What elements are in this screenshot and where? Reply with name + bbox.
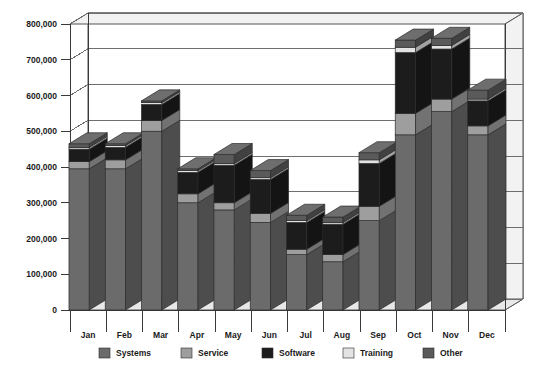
legend-swatch-systems-icon bbox=[99, 348, 110, 358]
bar-segment-aug-other bbox=[323, 217, 343, 222]
bar-segment-side bbox=[488, 124, 506, 310]
y-axis-tick-label: 300,000 bbox=[26, 198, 57, 208]
bar-segment-aug-software bbox=[323, 224, 343, 254]
bar-segment-side bbox=[271, 211, 289, 310]
chart-right-face bbox=[505, 13, 523, 310]
y-axis-tick-label: 700,000 bbox=[26, 55, 57, 65]
bar-segment-jan-service bbox=[69, 162, 89, 169]
stacked-bar-chart: 0100,000200,000300,000400,000500,000600,… bbox=[0, 0, 535, 380]
bar-segment-mar-service bbox=[141, 121, 161, 132]
bar-segment-sep-service bbox=[359, 206, 379, 220]
bar-segment-nov-other bbox=[431, 38, 451, 45]
bar-segment-side bbox=[162, 120, 180, 310]
bar-segment-oct-software bbox=[395, 53, 415, 114]
bar-segment-side bbox=[126, 158, 144, 310]
y-axis-tick-label: 500,000 bbox=[26, 126, 57, 136]
chart-legend: SystemsServiceSoftwareTrainingOther bbox=[99, 348, 463, 358]
legend-item-training[interactable]: Training bbox=[343, 348, 393, 358]
bar-segment-jun-service bbox=[250, 213, 270, 222]
bar-stack-dec bbox=[468, 79, 506, 310]
bar-segment-dec-systems bbox=[468, 135, 488, 310]
bar-segment-apr-software bbox=[178, 172, 198, 193]
legend-swatch-other-icon bbox=[423, 348, 434, 358]
bar-segment-apr-service bbox=[178, 194, 198, 203]
bar-segment-jan-software bbox=[69, 149, 89, 162]
bar-segment-sep-systems bbox=[359, 221, 379, 310]
bar-segment-mar-software bbox=[141, 104, 161, 120]
bar-segment-may-service bbox=[214, 203, 234, 210]
bar-segment-apr-systems bbox=[178, 203, 198, 310]
bar-segment-oct-systems bbox=[395, 135, 415, 310]
x-axis-label-may: May bbox=[225, 330, 242, 340]
bar-segment-side bbox=[234, 199, 252, 310]
y-axis-tick-label: 800,000 bbox=[26, 19, 57, 29]
bar-segment-mar-systems bbox=[141, 131, 161, 310]
bar-segment-side bbox=[198, 192, 216, 310]
x-axis-label-feb: Feb bbox=[117, 330, 132, 340]
legend-item-systems[interactable]: Systems bbox=[99, 348, 151, 358]
legend-label-software: Software bbox=[279, 348, 315, 358]
y-axis-tick-label: 600,000 bbox=[26, 91, 57, 101]
bar-segment-oct-training bbox=[395, 47, 415, 52]
bar-segment-jun-software bbox=[250, 180, 270, 214]
bar-segment-side bbox=[416, 124, 434, 310]
bar-stack-aug bbox=[323, 206, 361, 310]
bar-segment-oct-service bbox=[395, 113, 415, 134]
legend-item-software[interactable]: Software bbox=[262, 348, 315, 358]
bar-stack-jan bbox=[69, 133, 107, 310]
x-axis-label-aug: Aug bbox=[334, 330, 351, 340]
bar-segment-side bbox=[452, 101, 470, 310]
bar-segment-side bbox=[379, 210, 397, 310]
bar-segment-jul-other bbox=[286, 215, 306, 220]
bar-segment-feb-service bbox=[105, 160, 125, 169]
bar-stack-mar bbox=[141, 90, 179, 310]
x-axis-label-mar: Mar bbox=[153, 330, 169, 340]
bar-segment-jul-software bbox=[286, 222, 306, 249]
legend-item-other[interactable]: Other bbox=[423, 348, 463, 358]
y-axis-tick-label: 0 bbox=[52, 305, 57, 315]
bar-segment-jan-systems bbox=[69, 169, 89, 310]
bar-segment-side bbox=[89, 158, 107, 310]
legend-label-other: Other bbox=[440, 348, 463, 358]
legend-label-systems: Systems bbox=[116, 348, 151, 358]
bar-segment-jul-systems bbox=[286, 255, 306, 310]
y-axis-tick-label: 100,000 bbox=[26, 269, 57, 279]
x-axis-label-dec: Dec bbox=[479, 330, 495, 340]
bar-segment-nov-service bbox=[431, 99, 451, 112]
bar-stack-jul bbox=[286, 204, 324, 310]
bar-segment-aug-service bbox=[323, 255, 343, 262]
bar-segment-dec-service bbox=[468, 126, 488, 135]
bar-segment-feb-systems bbox=[105, 169, 125, 310]
bar-segment-may-software bbox=[214, 165, 234, 203]
bar-segment-side bbox=[307, 244, 325, 310]
bar-stack-oct bbox=[395, 29, 433, 310]
bar-segment-jun-systems bbox=[250, 222, 270, 310]
bar-segment-sep-software bbox=[359, 163, 379, 206]
bar-segment-may-other bbox=[214, 154, 234, 163]
bar-segment-sep-training bbox=[359, 160, 379, 164]
bar-segment-side bbox=[416, 42, 434, 114]
x-axis-label-nov: Nov bbox=[443, 330, 459, 340]
legend-label-training: Training bbox=[360, 348, 393, 358]
legend-item-service[interactable]: Service bbox=[181, 348, 229, 358]
bar-stack-feb bbox=[105, 133, 143, 310]
legend-label-service: Service bbox=[198, 348, 229, 358]
bar-segment-dec-other bbox=[468, 90, 488, 99]
x-axis-label-jul: Jul bbox=[299, 330, 311, 340]
bar-segment-feb-software bbox=[105, 147, 125, 160]
x-axis-label-sep: Sep bbox=[370, 330, 386, 340]
bar-segment-jul-service bbox=[286, 249, 306, 254]
bar-segment-nov-systems bbox=[431, 112, 451, 310]
legend-swatch-training-icon bbox=[343, 348, 354, 358]
legend-swatch-software-icon bbox=[262, 348, 273, 358]
y-axis-tick-labels: 0100,000200,000300,000400,000500,000600,… bbox=[26, 19, 57, 315]
x-axis-label-jun: Jun bbox=[262, 330, 277, 340]
bar-segment-aug-systems bbox=[323, 262, 343, 310]
legend-swatch-service-icon bbox=[181, 348, 192, 358]
bar-stack-nov bbox=[431, 27, 469, 310]
bar-stack-jun bbox=[250, 160, 288, 310]
bar-segment-nov-training bbox=[431, 45, 451, 49]
bar-segment-jan-other bbox=[69, 144, 89, 148]
bar-stack-sep bbox=[359, 142, 397, 310]
bar-segment-may-systems bbox=[214, 210, 234, 310]
